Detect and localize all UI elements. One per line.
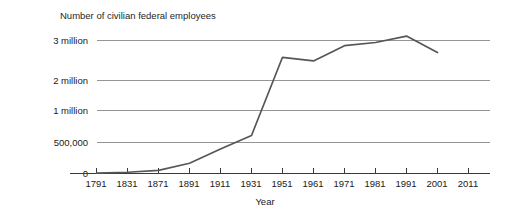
ytick-label-1-million: 1 million <box>53 105 88 116</box>
xtick-label-1831: 1831 <box>116 178 137 189</box>
ytick-label-3-million: 3 million <box>53 35 88 46</box>
chart-title: Number of civilian federal employees <box>60 10 216 21</box>
xtick-label-1951: 1951 <box>271 178 292 189</box>
xtick-label-1971: 1971 <box>333 178 354 189</box>
xtick-label-1791: 1791 <box>85 178 106 189</box>
xtick-label-2011: 2011 <box>458 178 478 189</box>
xtick-label-1891: 1891 <box>178 178 199 189</box>
xtick-label-1981: 1981 <box>364 178 385 189</box>
xtick-label-1871: 1871 <box>147 178 168 189</box>
xtick-label-1931: 1931 <box>240 178 261 189</box>
xtick-label-1991: 1991 <box>395 178 416 189</box>
ytick-label-2-million: 2 million <box>53 75 88 86</box>
ytick-label-500000: 500,000 <box>54 137 88 148</box>
x-axis-title: Year <box>255 196 274 207</box>
xtick-label-1911: 1911 <box>210 178 230 189</box>
chart-container: Number of civilian federal employees 3 m… <box>0 0 513 220</box>
line-chart: Number of civilian federal employees 3 m… <box>0 0 513 220</box>
xtick-label-2001: 2001 <box>426 178 447 189</box>
xtick-label-1961: 1961 <box>302 178 323 189</box>
